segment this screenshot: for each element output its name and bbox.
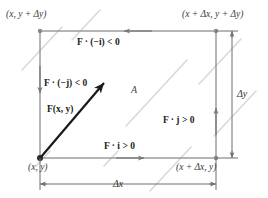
area-label: A (131, 85, 137, 95)
vector-field-arrow (41, 83, 104, 157)
delta-y-dimension (216, 31, 238, 158)
corner-label-bottom-left: (x, y) (28, 163, 48, 173)
vector-field-label: F(x, y) (47, 105, 73, 115)
delta-y-label: Δy (237, 89, 247, 99)
corner-label-top-right: (x + Δx, y + Δy) (182, 10, 243, 20)
rectangle-boundary (40, 31, 216, 158)
flux-label-top: F · (−i) < 0 (77, 38, 120, 48)
flux-label-right: F · j > 0 (163, 116, 194, 126)
delta-x-label: Δx (113, 179, 123, 189)
corner-label-top-left: (x, y + Δy) (6, 10, 46, 20)
flux-rectangle-diagram: (x, y + Δy) (x + Δx, y + Δy) (x, y) (x +… (0, 0, 268, 198)
corner-label-bottom-right: (x + Δx, y) (176, 163, 216, 173)
flux-label-bottom: F · i > 0 (104, 142, 135, 152)
edge-flux-arrows (40, 31, 216, 158)
flux-label-left: F · (−j) < 0 (44, 79, 87, 89)
background-field-streaks (22, 10, 256, 191)
